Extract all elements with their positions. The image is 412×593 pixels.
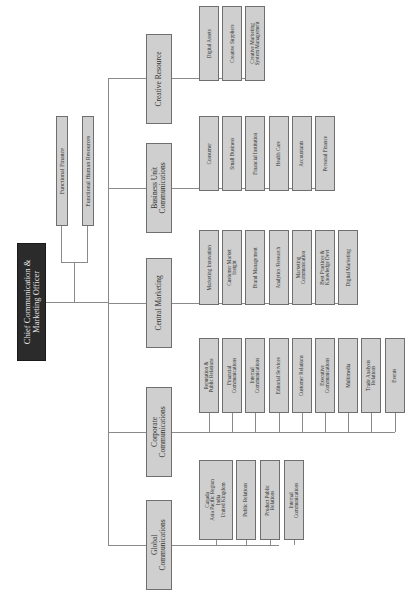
division-node-0-label: Creative Resource — [155, 35, 163, 123]
leaf-node-3-1-label: Financial Communications — [227, 339, 238, 412]
leaf-node-3-2-label: Internal Communications — [250, 339, 261, 412]
leaf-node-1-4: Accountants — [292, 116, 312, 191]
root-node-label: Chief Communication & Marketing Officer — [23, 244, 41, 360]
leaf-node-1-0: Consumer — [199, 116, 219, 191]
leaf-node-2-4-label: Marketing Communication — [296, 231, 307, 304]
division-node-3: Corporate Communications — [146, 387, 172, 477]
leaf-node-4-2-label: Product Public Relations — [265, 461, 276, 539]
leaf-node-2-6: Digital Marketing — [338, 230, 358, 305]
leaf-connector — [270, 540, 271, 545]
leaf-connector — [216, 540, 217, 545]
division-node-2: Central Marketing — [146, 258, 172, 348]
leaf-node-3-8: Events — [385, 338, 405, 413]
division-branch-line — [172, 545, 279, 546]
leaf-connector — [232, 413, 233, 432]
root-node-cmo: Chief Communication & Marketing Officer — [17, 243, 46, 361]
leaf-node-0-2-label: Creative Marketing System Management — [250, 7, 261, 80]
trunk-line — [108, 78, 109, 546]
division-connector — [108, 432, 146, 433]
leaf-connector — [302, 413, 303, 432]
leaf-node-4-0: Canada Asia Pacific Region India United … — [199, 460, 233, 540]
leaf-node-1-2: Financial Institution — [245, 116, 265, 191]
leaf-node-0-1: Creative Suppliers — [222, 6, 242, 81]
leaf-node-2-4: Marketing Communication — [292, 230, 312, 305]
division-node-1: Business Unit Communications — [146, 143, 172, 233]
leaf-node-2-6-label: Digital Marketing — [345, 231, 350, 304]
leaf-node-4-0-label: Canada Asia Pacific Region India United … — [205, 461, 227, 539]
leaf-node-3-8-label: Events — [392, 339, 397, 412]
leaf-node-3-0: Reputation & Public Relations — [199, 338, 219, 413]
leaf-node-1-1: Small Business — [222, 116, 242, 191]
leaf-node-2-2: Brand Management — [245, 230, 265, 305]
functional-hr-label: Functional Human Resources — [85, 117, 91, 225]
leaf-node-4-1: Public Relations — [236, 460, 256, 540]
division-connector — [108, 545, 146, 546]
leaf-node-1-4-label: Accountants — [299, 117, 304, 190]
division-node-4: Global Communications — [146, 500, 172, 590]
leaf-node-2-5-label: Best Practices & Knowledge Devt — [320, 231, 331, 304]
finance-stem — [61, 226, 62, 262]
leaf-node-1-1-label: Small Business — [229, 117, 234, 190]
leaf-connector — [371, 413, 372, 432]
leaf-node-3-2: Internal Communications — [245, 338, 265, 413]
leaf-node-2-1: Customer Market Insight — [222, 230, 242, 305]
leaf-node-3-1: Financial Communications — [222, 338, 242, 413]
leaf-node-0-2: Creative Marketing System Management — [245, 6, 265, 81]
functional-finance-node: Functional Finance — [56, 116, 68, 226]
leaf-node-3-5-label: Executive Communications — [320, 339, 331, 412]
leaf-node-3-4: Customer Relations — [292, 338, 312, 413]
division-node-2-label: Central Marketing — [155, 259, 163, 347]
leaf-node-1-3: Health Care — [269, 116, 289, 191]
leaf-node-2-1-label: Customer Market Insight — [227, 231, 238, 304]
division-node-3-label: Corporate Communications — [151, 388, 167, 476]
leaf-node-3-7: Trade Analysis Relations — [361, 338, 381, 413]
division-connector — [108, 303, 146, 304]
hr-stem — [87, 226, 88, 262]
leaf-connector — [294, 540, 295, 545]
leaf-node-3-3: Editorial Services — [269, 338, 289, 413]
leaf-node-4-3: Internal Communications — [284, 460, 304, 540]
leaf-connector — [279, 413, 280, 432]
leaf-node-2-3: Analytics /Research — [269, 230, 289, 305]
leaf-node-2-3-label: Analytics /Research — [276, 231, 281, 304]
division-connector — [108, 78, 146, 79]
root-connector — [46, 302, 108, 303]
functional-hr-node: Functional Human Resources — [82, 116, 94, 226]
leaf-node-1-0-label: Consumer — [206, 117, 211, 190]
division-node-1-label: Business Unit Communications — [151, 144, 167, 232]
division-node-0: Creative Resource — [146, 34, 172, 124]
leaf-connector — [348, 413, 349, 432]
leaf-node-2-0: Marketing Innovation — [199, 230, 219, 305]
leaf-node-3-5: Executive Communications — [315, 338, 335, 413]
leaf-node-3-7-label: Trade Analysis Relations — [366, 339, 377, 412]
leaf-node-1-5-label: Personal Finance — [322, 117, 327, 190]
leaf-node-4-2: Product Public Relations — [260, 460, 280, 540]
leaf-connector — [209, 413, 210, 432]
leaf-connector — [325, 413, 326, 432]
leaf-node-0-0: Digital Assets — [199, 6, 219, 81]
leaf-node-4-3-label: Internal Communications — [289, 461, 300, 539]
leaf-node-0-0-label: Digital Assets — [206, 7, 211, 80]
leaf-node-2-2-label: Brand Management — [253, 231, 258, 304]
leaf-node-3-4-label: Customer Relations — [299, 339, 304, 412]
functional-connector — [74, 262, 75, 302]
leaf-node-1-2-label: Financial Institution — [253, 117, 258, 190]
division-node-4-label: Global Communications — [151, 501, 167, 589]
division-connector — [108, 188, 146, 189]
leaf-node-3-3-label: Editorial Services — [276, 339, 281, 412]
leaf-node-3-6-label: Multimedia — [345, 339, 350, 412]
division-branch-line — [172, 432, 395, 433]
leaf-node-0-1-label: Creative Suppliers — [229, 7, 234, 80]
leaf-node-1-5: Personal Finance — [315, 116, 335, 191]
leaf-node-2-5: Best Practices & Knowledge Devt — [315, 230, 335, 305]
leaf-node-1-3-label: Health Care — [276, 117, 281, 190]
leaf-connector — [246, 540, 247, 545]
leaf-node-2-0-label: Marketing Innovation — [206, 231, 211, 304]
leaf-connector — [395, 413, 396, 432]
leaf-node-3-0-label: Reputation & Public Relations — [204, 339, 215, 412]
leaf-node-4-1-label: Public Relations — [243, 461, 248, 539]
functional-finance-label: Functional Finance — [59, 117, 65, 225]
leaf-node-3-6: Multimedia — [338, 338, 358, 413]
leaf-connector — [255, 413, 256, 432]
